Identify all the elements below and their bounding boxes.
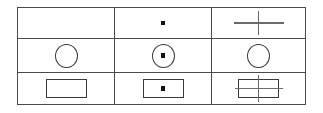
cell-content-r3c2 bbox=[115, 73, 211, 104]
cross-vertical-line bbox=[258, 11, 259, 35]
matrix-cell-r1c1 bbox=[18, 8, 115, 39]
cell-content-r1c2 bbox=[115, 8, 211, 38]
cell-content-r2c2 bbox=[115, 39, 211, 72]
cell-content-r3c1 bbox=[18, 73, 114, 104]
cell-content-r2c3 bbox=[212, 39, 305, 72]
dot-shape bbox=[161, 86, 166, 91]
matrix-cell-r1c3 bbox=[212, 8, 305, 39]
matrix-cell-r3c3 bbox=[212, 73, 305, 104]
matrix-cell-r2c2 bbox=[115, 39, 212, 73]
cell-content-r1c3 bbox=[212, 8, 305, 38]
matrix-cell-r3c1 bbox=[18, 73, 115, 104]
cell-content-r3c3 bbox=[212, 73, 305, 104]
matrix-cell-r2c3 bbox=[212, 39, 305, 73]
cell-content-r1c1 bbox=[18, 8, 114, 38]
cell-content-r2c1 bbox=[18, 39, 114, 72]
rectangle-shape bbox=[46, 79, 87, 98]
matrix-grid bbox=[17, 7, 306, 105]
dot-shape bbox=[161, 53, 166, 58]
matrix-cell-r1c2 bbox=[115, 8, 212, 39]
matrix-puzzle-figure bbox=[0, 0, 323, 113]
dot-shape bbox=[161, 21, 166, 26]
circle-shape bbox=[55, 44, 78, 68]
matrix-cell-r3c2 bbox=[115, 73, 212, 104]
matrix-cell-r2c1 bbox=[18, 39, 115, 73]
cross-vertical-line bbox=[258, 75, 259, 102]
circle-shape bbox=[247, 44, 270, 68]
